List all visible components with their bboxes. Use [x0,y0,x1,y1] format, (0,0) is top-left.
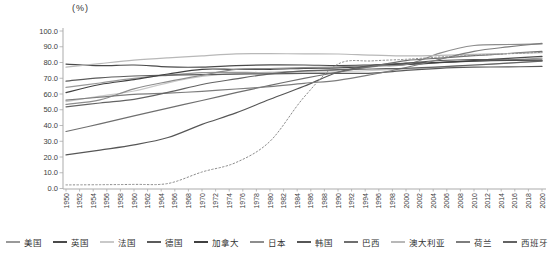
legend-label: 澳大利亚 [409,236,445,248]
legend-item-1: 英国 [53,236,89,248]
x-axis-tick-label: 1992 [348,193,355,209]
legend-item-4: 加拿大 [194,236,239,248]
y-axis-tick-label: 0.0 [48,184,58,193]
legend-swatch-icon [391,241,405,243]
y-axis-tick-label: 50.0 [43,105,58,114]
x-axis-tick-label: 1950 [63,193,70,209]
legend-item-8: 澳大利亚 [391,236,445,248]
legend-label: 日本 [268,236,286,248]
series-line-5 [66,44,542,105]
legend-label: 英国 [71,236,89,248]
x-axis-tick-label: 2002 [416,193,423,209]
line-chart-plot: 0.010.020.030.040.050.060.070.080.090.01… [0,0,554,236]
x-axis-tick-label: 1956 [103,193,110,209]
legend-swatch-icon [250,241,264,243]
y-axis-tick-label: 30.0 [43,137,58,146]
x-axis-tick-label: 1998 [389,193,396,209]
legend-swatch-icon [53,241,67,243]
x-axis-tick-label: 2016 [511,193,518,209]
legend-item-0: 美国 [6,236,42,248]
x-axis-tick-label: 1970 [199,193,206,209]
x-axis-tick-label: 2018 [525,193,532,209]
legend-label: 巴西 [362,236,380,248]
x-axis-tick-label: 2014 [498,193,505,209]
legend-swatch-icon [503,241,517,243]
y-axis-tick-label: 70.0 [43,74,58,83]
x-axis-tick-label: 1982 [280,193,287,209]
x-axis-tick-label: 1972 [212,193,219,209]
legend-label: 韩国 [315,236,333,248]
legend-item-2: 法国 [100,236,136,248]
x-axis-tick-label: 1952 [76,193,83,209]
x-axis-tick-label: 1986 [307,193,314,209]
x-axis-tick-label: 1974 [226,193,233,209]
y-axis-tick-label: 80.0 [43,58,58,67]
chart-legend: 美国英国法国德国加拿大日本韩国巴西澳大利亚荷兰西班牙 [0,236,554,248]
legend-label: 西班牙 [521,236,548,248]
legend-item-6: 韩国 [297,236,333,248]
y-axis-tick-label: 10.0 [43,168,58,177]
x-axis-tick-label: 2004 [430,193,437,209]
legend-swatch-icon [6,241,20,243]
y-axis-tick-label: 40.0 [43,121,58,130]
y-axis-tick-label: 90.0 [43,42,58,51]
series-line-7 [66,51,542,131]
x-axis-tick-label: 1968 [185,193,192,209]
x-axis-tick-label: 2000 [403,193,410,209]
x-axis-tick-label: 1988 [321,193,328,209]
legend-label: 德国 [165,236,183,248]
legend-label: 法国 [118,236,136,248]
x-axis-tick-label: 1980 [267,193,274,209]
chart-figure: (%) 0.010.020.030.040.050.060.070.080.09… [0,0,554,261]
legend-swatch-icon [456,241,470,243]
y-axis-tick-label: 20.0 [43,153,58,162]
x-axis-tick-label: 1994 [362,193,369,209]
legend-item-3: 德国 [147,236,183,248]
x-axis-tick-label: 1958 [117,193,124,209]
x-axis-tick-label: 2012 [484,193,491,209]
legend-label: 加拿大 [212,236,239,248]
legend-swatch-icon [344,241,358,243]
x-axis-tick-label: 2010 [471,193,478,209]
legend-swatch-icon [147,241,161,243]
legend-item-5: 日本 [250,236,286,248]
legend-item-9: 荷兰 [456,236,492,248]
x-axis-tick-label: 2008 [457,193,464,209]
legend-swatch-icon [194,241,208,243]
x-axis-tick-label: 1984 [294,193,301,209]
x-axis-tick-label: 1990 [335,193,342,209]
legend-label: 荷兰 [474,236,492,248]
legend-swatch-icon [100,241,114,243]
x-axis-tick-label: 1962 [144,193,151,209]
x-axis-tick-label: 1978 [253,193,260,209]
legend-label: 美国 [24,236,42,248]
x-axis-tick-label: 1964 [158,193,165,209]
y-axis-tick-label: 100.0 [39,27,58,36]
x-axis-tick-label: 2006 [443,193,450,209]
y-axis-tick-label: 60.0 [43,90,58,99]
x-axis-tick-label: 1996 [375,193,382,209]
legend-swatch-icon [297,241,311,243]
x-axis-tick-label: 1954 [90,193,97,209]
legend-item-10: 西班牙 [503,236,548,248]
legend-item-7: 巴西 [344,236,380,248]
x-axis-tick-label: 2020 [539,193,546,209]
x-axis-tick-label: 1976 [239,193,246,209]
x-axis-tick-label: 1960 [131,193,138,209]
x-axis-tick-label: 1966 [171,193,178,209]
